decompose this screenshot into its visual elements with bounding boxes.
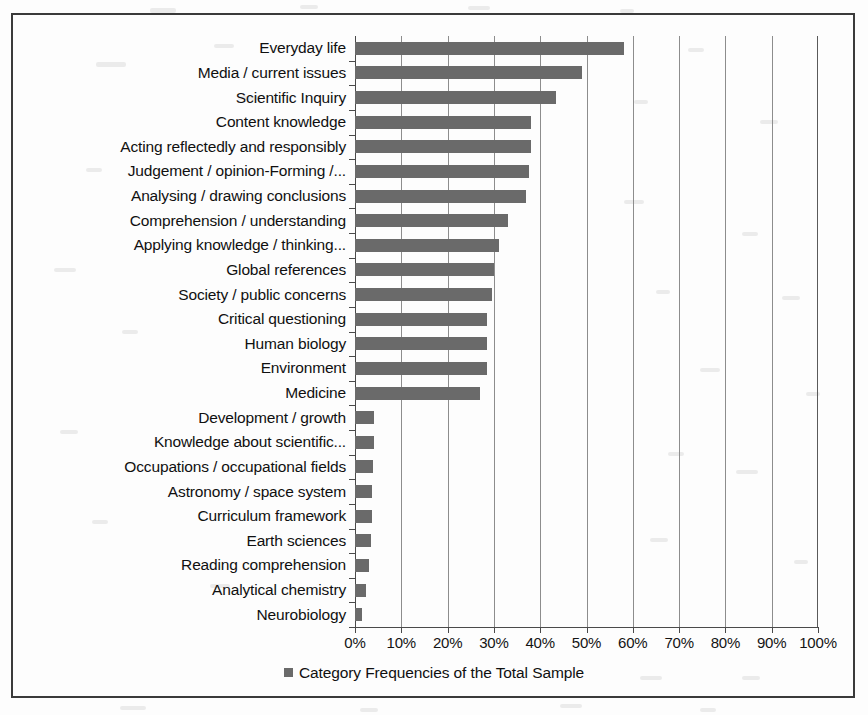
legend-square-marker-icon (284, 668, 293, 677)
category-axis-tick (349, 258, 355, 259)
category-label: Analysing / drawing conclusions (0, 188, 346, 204)
category-label: Media / current issues (0, 65, 346, 81)
bar (355, 190, 526, 203)
category-label: Astronomy / space system (0, 484, 346, 500)
bar (355, 411, 374, 424)
category-axis-tick (349, 553, 355, 554)
plot-right-border (817, 36, 818, 627)
category-axis-tick (349, 135, 355, 136)
x-axis-tick (679, 627, 680, 633)
category-axis-tick (349, 578, 355, 579)
category-label: Medicine (0, 385, 346, 401)
category-label: Reading comprehension (0, 557, 346, 573)
x-axis-tick (725, 627, 726, 633)
x-axis-tick (448, 627, 449, 633)
bar (355, 436, 374, 449)
bar (355, 608, 362, 621)
category-axis-tick (349, 233, 355, 234)
bar (355, 362, 487, 375)
gridline (587, 36, 588, 627)
category-axis-tick (349, 381, 355, 382)
horizontal-bar-chart: 0%10%20%30%40%50%60%70%80%90%100% Everyd… (0, 0, 868, 715)
x-axis-tick (633, 627, 634, 633)
category-label: Society / public concerns (0, 287, 346, 303)
bar (355, 584, 366, 597)
category-axis-tick (349, 307, 355, 308)
category-axis-tick (349, 208, 355, 209)
chart-legend: Category Frequencies of the Total Sample (0, 664, 868, 682)
category-axis-tick (349, 430, 355, 431)
category-axis-tick (349, 627, 355, 628)
bar (355, 460, 373, 473)
bar (355, 559, 369, 572)
category-axis-tick (349, 356, 355, 357)
category-axis-tick (349, 455, 355, 456)
category-label: Scientific Inquiry (0, 90, 346, 106)
bar (355, 42, 624, 55)
category-label: Development / growth (0, 410, 346, 426)
gridline (679, 36, 680, 627)
bar (355, 239, 499, 252)
category-label: Neurobiology (0, 607, 346, 623)
category-label: Human biology (0, 336, 346, 352)
category-axis-tick (349, 504, 355, 505)
category-label: Applying knowledge / thinking... (0, 237, 346, 253)
bar (355, 387, 480, 400)
bar (355, 66, 582, 79)
x-axis-tick (818, 627, 819, 633)
category-axis-tick (349, 282, 355, 283)
category-axis-tick (349, 332, 355, 333)
category-label: Global references (0, 262, 346, 278)
bar (355, 165, 529, 178)
gridline (772, 36, 773, 627)
category-label: Everyday life (0, 40, 346, 56)
category-axis-tick (349, 602, 355, 603)
gridline (633, 36, 634, 627)
category-label: Judgement / opinion-Forming /... (0, 163, 346, 179)
x-axis-tick-label: 100% (788, 634, 848, 651)
bar (355, 91, 556, 104)
bar (355, 263, 494, 276)
category-axis-tick (349, 61, 355, 62)
category-label: Content knowledge (0, 114, 346, 130)
category-axis-tick (349, 479, 355, 480)
category-label: Acting reflectedly and responsibly (0, 139, 346, 155)
gridline (725, 36, 726, 627)
category-label: Comprehension / understanding (0, 213, 346, 229)
x-axis-tick (355, 627, 356, 633)
plot-area (355, 36, 818, 627)
bar (355, 140, 531, 153)
bar (355, 485, 372, 498)
category-label: Critical questioning (0, 311, 346, 327)
category-label: Analytical chemistry (0, 582, 346, 598)
category-label: Occupations / occupational fields (0, 459, 346, 475)
x-axis-tick (587, 627, 588, 633)
x-axis-tick (401, 627, 402, 633)
category-axis-tick (349, 405, 355, 406)
category-label: Earth sciences (0, 533, 346, 549)
category-label: Environment (0, 360, 346, 376)
legend-label: Category Frequencies of the Total Sample (299, 664, 584, 681)
x-axis-tick (540, 627, 541, 633)
bar (355, 337, 487, 350)
bar (355, 288, 492, 301)
category-label: Curriculum framework (0, 508, 346, 524)
x-axis-tick (772, 627, 773, 633)
bar (355, 313, 487, 326)
category-axis-tick (349, 159, 355, 160)
category-axis-tick (349, 85, 355, 86)
category-label: Knowledge about scientific... (0, 434, 346, 450)
bar (355, 214, 508, 227)
category-axis-tick (349, 529, 355, 530)
bar (355, 534, 371, 547)
category-axis-tick (349, 110, 355, 111)
bar (355, 510, 372, 523)
x-axis-tick (494, 627, 495, 633)
category-axis-tick (349, 184, 355, 185)
bar (355, 116, 531, 129)
gridline (540, 36, 541, 627)
